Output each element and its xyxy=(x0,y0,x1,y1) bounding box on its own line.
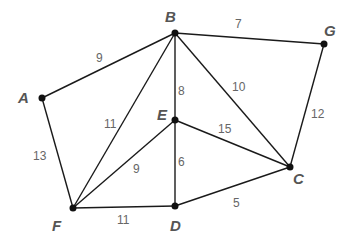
node-label-b: B xyxy=(165,8,176,25)
node-label-a: A xyxy=(17,89,29,106)
edge-e-c xyxy=(175,120,290,167)
edge-weight-d-c: 5 xyxy=(233,196,240,210)
node-label-f: F xyxy=(52,217,62,234)
edges-group xyxy=(42,33,324,208)
edge-b-c xyxy=(175,33,290,167)
node-label-c: C xyxy=(293,170,305,187)
weighted-graph-diagram: 978101211131596115 ABGECFD xyxy=(0,0,350,241)
edge-f-d xyxy=(73,206,175,208)
edge-a-f xyxy=(42,98,73,208)
edge-a-b xyxy=(42,33,175,98)
node-d xyxy=(172,203,179,210)
edge-b-g xyxy=(175,33,324,44)
node-label-g: G xyxy=(324,22,336,39)
edge-weight-b-g: 7 xyxy=(235,17,242,31)
edge-weight-a-f: 13 xyxy=(33,149,47,163)
edge-weight-e-d: 6 xyxy=(178,155,185,169)
node-label-e: E xyxy=(157,106,168,123)
edge-weight-g-c: 12 xyxy=(311,107,325,121)
node-f xyxy=(70,205,77,212)
edge-weight-b-c: 10 xyxy=(232,80,246,94)
node-a xyxy=(39,95,46,102)
edge-weight-b-f: 11 xyxy=(104,117,117,131)
nodes-group xyxy=(39,30,328,212)
edge-weight-f-d: 11 xyxy=(117,213,130,227)
node-label-d: D xyxy=(170,217,181,234)
edge-g-c xyxy=(290,44,324,167)
node-b xyxy=(172,30,179,37)
node-g xyxy=(321,41,328,48)
edge-weight-e-c: 15 xyxy=(218,122,232,136)
edge-weight-b-e: 8 xyxy=(178,84,185,98)
edge-weight-a-b: 9 xyxy=(96,51,103,65)
node-e xyxy=(172,117,179,124)
edge-e-f xyxy=(73,120,175,208)
edge-weight-e-f: 9 xyxy=(133,162,140,176)
